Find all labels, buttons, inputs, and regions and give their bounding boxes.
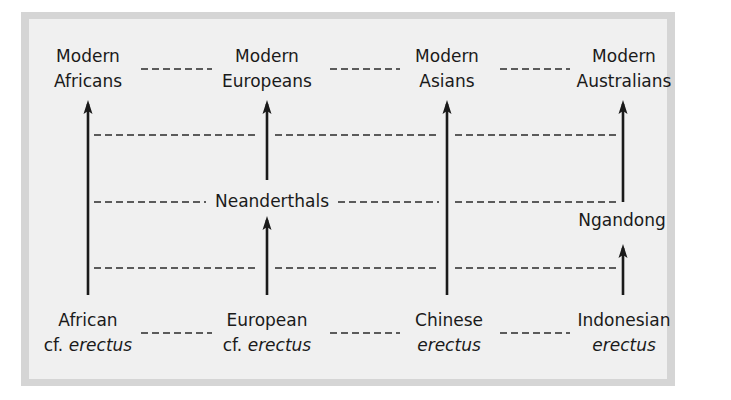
- node-african-erectus: African cf. erectus: [44, 308, 132, 358]
- node-label-line2: cf. erectus: [223, 333, 311, 358]
- node-chinese-erectus: Chinese erectus: [415, 308, 483, 358]
- node-label-taxon: erectus: [592, 335, 656, 355]
- node-modern-australians: Modern Australians: [577, 44, 672, 94]
- node-label-line1: Chinese: [415, 308, 483, 333]
- node-modern-europeans: Modern Europeans: [222, 44, 312, 94]
- node-neanderthals: Neanderthals: [215, 190, 329, 212]
- node-label-line2: cf. erectus: [44, 333, 132, 358]
- node-ngandong: Ngandong: [578, 209, 665, 231]
- node-label-taxon: erectus: [69, 335, 133, 355]
- node-label-taxon: erectus: [417, 335, 481, 355]
- node-label-prefix: cf.: [44, 335, 69, 355]
- node-label-line2: Australians: [577, 69, 672, 94]
- node-label-taxon: erectus: [248, 335, 312, 355]
- node-label-line1: Modern: [415, 44, 479, 69]
- node-european-erectus: European cf. erectus: [223, 308, 311, 358]
- node-label-line1: Modern: [222, 44, 312, 69]
- node-label-line1: Modern: [54, 44, 122, 69]
- node-modern-africans: Modern Africans: [54, 44, 122, 94]
- node-modern-asians: Modern Asians: [415, 44, 479, 94]
- node-label-line2: Asians: [415, 69, 479, 94]
- node-label-prefix: cf.: [223, 335, 248, 355]
- node-label-line2: Africans: [54, 69, 122, 94]
- node-label-line1: Indonesian: [578, 308, 671, 333]
- node-label-line1: Modern: [577, 44, 672, 69]
- node-label-line1: African: [44, 308, 132, 333]
- node-label-line1: European: [223, 308, 311, 333]
- node-label-line2: erectus: [415, 333, 483, 358]
- node-label-line2: erectus: [578, 333, 671, 358]
- node-indonesian-erectus: Indonesian erectus: [578, 308, 671, 358]
- node-label-line2: Europeans: [222, 69, 312, 94]
